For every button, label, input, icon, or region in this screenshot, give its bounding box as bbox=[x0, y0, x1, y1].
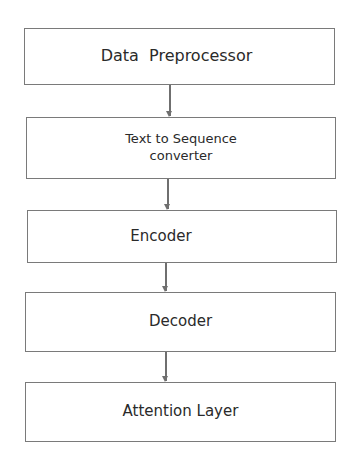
node-decoder: Decoder bbox=[25, 292, 336, 352]
node-label: Attention Layer bbox=[123, 402, 239, 422]
flowchart-diagram: Data Preprocessor Text to Sequence conve… bbox=[0, 0, 356, 462]
arrow-down-icon bbox=[169, 85, 171, 116]
node-label: Text to Sequence converter bbox=[125, 131, 237, 165]
node-data-preprocessor: Data Preprocessor bbox=[24, 28, 335, 85]
node-label: Data Preprocessor bbox=[101, 46, 253, 67]
node-attention-layer: Attention Layer bbox=[25, 382, 336, 442]
node-encoder: Encoder bbox=[27, 210, 337, 263]
arrow-down-icon bbox=[165, 263, 167, 291]
node-text-to-sequence-converter: Text to Sequence converter bbox=[26, 117, 336, 179]
arrow-down-icon bbox=[167, 179, 169, 209]
node-label: Encoder bbox=[130, 227, 191, 247]
node-label: Decoder bbox=[149, 312, 212, 332]
arrow-down-icon bbox=[165, 352, 167, 381]
